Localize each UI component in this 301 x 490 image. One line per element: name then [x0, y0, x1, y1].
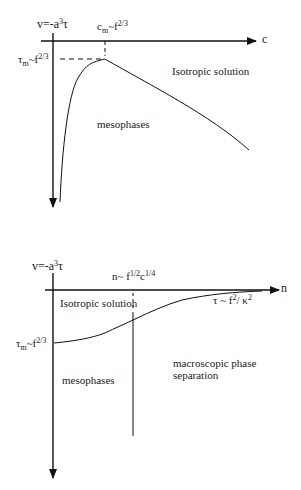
- label-base: v=-a: [32, 259, 54, 273]
- label-sup: 1/4: [145, 269, 155, 278]
- top-region-isotropic: Isotropic solution: [172, 65, 249, 77]
- label-text: mesophases: [62, 374, 115, 386]
- label-sup: 2/3: [36, 336, 46, 345]
- top-peak-tau-label: τm~f2/3: [18, 53, 49, 65]
- label-sup: 2: [248, 293, 252, 302]
- bottom-y-axis-label: v=-a3τ: [32, 260, 63, 272]
- label-tail: τ: [63, 17, 68, 31]
- bottom-x-axis-label: n: [281, 282, 287, 294]
- bottom-asymptote-label: τ ~ f2/ κ2: [213, 294, 252, 306]
- label-line-1: macroscopic phase: [173, 357, 256, 369]
- label-line-2: separation: [173, 369, 256, 381]
- label-sup: 1/2: [130, 269, 140, 278]
- label-mid: / κ: [237, 294, 248, 306]
- bottom-intercept-tau-label: τm~f2/3: [16, 337, 47, 349]
- label-sup: 2/3: [118, 19, 128, 28]
- label-mid: ~f: [29, 53, 39, 65]
- top-y-axis-label: v=-a3τ: [37, 18, 68, 30]
- label-mid: ~f: [108, 20, 118, 32]
- bottom-boundary-label: n~ f1/2c1/4: [112, 270, 155, 282]
- label-tail: τ: [58, 259, 63, 273]
- label-text: n: [281, 281, 287, 295]
- label-text: c: [262, 32, 267, 46]
- label-text: Isotropic solution: [172, 65, 249, 77]
- label-base: n~ f: [112, 270, 130, 282]
- phase-diagrams-canvas: [0, 0, 301, 490]
- bottom-region-isotropic: Isotropic solution: [60, 297, 137, 309]
- bottom-region-macroscopic: macroscopic phase separation: [173, 357, 256, 381]
- top-x-axis-label: c: [262, 33, 267, 45]
- top-peak-c-label: cm~f2/3: [97, 20, 128, 32]
- bottom-region-mesophases: mesophases: [62, 374, 115, 386]
- label-sup: 2/3: [38, 52, 48, 61]
- label-text: mesophases: [97, 118, 150, 130]
- label-base: v=-a: [37, 17, 59, 31]
- label-mid: ~f: [27, 337, 37, 349]
- label-base: τ ~ f: [213, 294, 233, 306]
- label-text: Isotropic solution: [60, 297, 137, 309]
- top-region-mesophases: mesophases: [97, 118, 150, 130]
- top-phase-boundary-curve: [60, 59, 249, 202]
